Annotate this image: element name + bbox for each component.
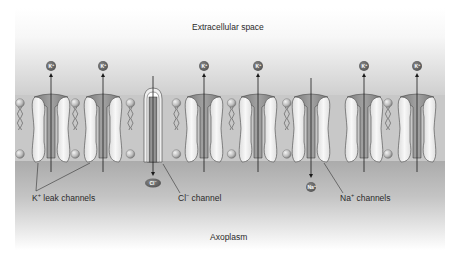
k-ion: K+ bbox=[199, 61, 209, 71]
extracellular-space-label: Extracellular space bbox=[192, 22, 264, 32]
axoplasm-label: Axoplasm bbox=[210, 232, 247, 242]
cl-channel bbox=[144, 76, 162, 174]
na-ion: Na+ bbox=[306, 182, 316, 192]
na-base: Na bbox=[340, 193, 351, 203]
k-ion: K+ bbox=[359, 61, 369, 71]
k-ion: K+ bbox=[412, 61, 422, 71]
k-ion: K+ bbox=[253, 61, 263, 71]
na-channels-label: Na+ channels bbox=[340, 192, 390, 203]
diagram-canvas: K+K+K+K+K+K+Cl−Na+ bbox=[0, 0, 463, 259]
na-text: channels bbox=[354, 193, 390, 203]
cl-base: Cl bbox=[178, 193, 186, 203]
k-ion: K+ bbox=[46, 61, 56, 71]
k-ion: K+ bbox=[98, 61, 108, 71]
membrane-diagram: K+K+K+K+K+K+Cl−Na+ Extracellular space K… bbox=[0, 0, 463, 259]
cl-channel-label: Cl− channel bbox=[178, 192, 221, 203]
cl-ion: Cl− bbox=[145, 178, 161, 187]
k-leak-channels-label: K+ leak channels bbox=[32, 192, 95, 203]
cl-text: channel bbox=[189, 193, 221, 203]
k-leak-text: leak channels bbox=[41, 193, 95, 203]
